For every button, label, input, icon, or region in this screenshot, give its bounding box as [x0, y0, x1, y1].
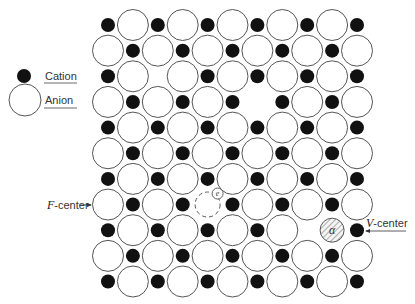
anion	[192, 86, 223, 117]
legend-cation-label: Cation	[45, 70, 77, 82]
cation	[176, 44, 190, 58]
anion	[93, 189, 124, 220]
anion	[93, 240, 124, 271]
cation	[300, 121, 314, 135]
f-center-annotation: F-center	[46, 198, 92, 212]
anion	[342, 86, 373, 117]
anion	[117, 112, 148, 143]
legend: Cation Anion	[9, 69, 77, 116]
anion	[292, 35, 323, 66]
anion	[317, 266, 348, 297]
anion	[142, 189, 173, 220]
anion	[267, 112, 298, 143]
cation	[151, 121, 165, 135]
anion	[167, 112, 198, 143]
cation	[350, 69, 364, 83]
cation	[201, 172, 215, 186]
legend-anion-label: Anion	[45, 94, 73, 106]
cation	[101, 223, 115, 237]
cation	[201, 223, 215, 237]
cation	[151, 223, 165, 237]
anion	[267, 215, 298, 246]
cation	[176, 95, 190, 109]
cation	[350, 172, 364, 186]
cation	[101, 18, 115, 32]
legend-anion-symbol	[9, 84, 41, 116]
anion	[142, 240, 173, 271]
anion	[267, 10, 298, 41]
alpha-symbol: α	[329, 223, 336, 237]
cation	[151, 275, 165, 289]
anion	[267, 163, 298, 194]
cation	[350, 18, 364, 32]
f-center-arrowhead	[87, 203, 92, 207]
cation	[226, 95, 240, 109]
anion	[267, 266, 298, 297]
anion	[93, 138, 124, 169]
anion	[167, 10, 198, 41]
cation	[201, 69, 215, 83]
cation	[151, 18, 165, 32]
cation	[226, 198, 240, 212]
anion	[167, 215, 198, 246]
anion	[167, 266, 198, 297]
anion	[292, 240, 323, 271]
cation	[275, 95, 289, 109]
cation	[250, 172, 264, 186]
anion	[317, 112, 348, 143]
anion	[242, 35, 273, 66]
cation	[275, 198, 289, 212]
cation	[126, 198, 140, 212]
cation	[226, 249, 240, 263]
cation	[201, 121, 215, 135]
cation	[300, 69, 314, 83]
cation	[350, 121, 364, 135]
cation	[226, 44, 240, 58]
anion	[117, 266, 148, 297]
cation	[275, 146, 289, 160]
cation	[126, 249, 140, 263]
cation	[176, 146, 190, 160]
cation	[151, 172, 165, 186]
cation	[126, 95, 140, 109]
cation	[325, 198, 339, 212]
anion	[117, 215, 148, 246]
anion	[192, 35, 223, 66]
anion	[117, 163, 148, 194]
cation	[126, 146, 140, 160]
anion	[217, 266, 248, 297]
cation	[101, 69, 115, 83]
anion	[317, 61, 348, 92]
cation	[126, 44, 140, 58]
v-center-annotation: V-center	[365, 216, 408, 233]
anion	[192, 240, 223, 271]
anion	[117, 10, 148, 41]
cation	[275, 249, 289, 263]
cation	[250, 275, 264, 289]
crystal-lattice: eα	[93, 10, 373, 298]
cation	[201, 275, 215, 289]
anion	[242, 189, 273, 220]
anion	[317, 10, 348, 41]
anion	[142, 138, 173, 169]
cation	[176, 198, 190, 212]
anion	[93, 35, 124, 66]
cation	[250, 18, 264, 32]
cation	[350, 275, 364, 289]
cation	[101, 121, 115, 135]
anion	[167, 163, 198, 194]
anion	[292, 138, 323, 169]
cation	[176, 249, 190, 263]
anion	[292, 86, 323, 117]
anion	[292, 189, 323, 220]
cation	[300, 18, 314, 32]
anion	[93, 86, 124, 117]
cation	[250, 223, 264, 237]
cation	[325, 146, 339, 160]
anion	[217, 61, 248, 92]
anion	[117, 61, 148, 92]
cation	[325, 249, 339, 263]
anion	[267, 61, 298, 92]
cation	[300, 275, 314, 289]
cation	[250, 69, 264, 83]
